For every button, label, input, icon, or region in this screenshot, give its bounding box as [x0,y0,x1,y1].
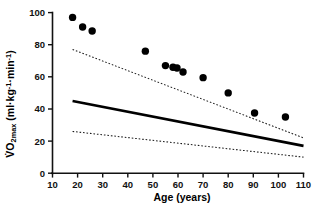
y-axis-title-subscript: 2max [9,123,18,143]
y-tick-label-20: 20 [34,136,45,147]
y-axis-title-vdot: V̇ [4,151,16,158]
y-tick-label-60: 60 [34,71,45,82]
x-tick-label-80: 80 [223,179,234,190]
points-layer [69,14,289,121]
y-tick-label-80: 80 [34,39,45,50]
y-axis-title-exp1: -1 [4,83,13,90]
lower-confidence-limit [73,131,304,157]
x-axis-tick-labels: 10 20 30 40 50 60 70 80 90 100 110 [47,179,311,190]
x-tick-label-40: 40 [123,179,134,190]
data-point [79,23,86,30]
chart-figure: V̇O2max (ml·kg-1·min-1) 0 20 40 60 80 10… [0,0,318,204]
data-point [173,64,180,71]
y-axis-title-units-open: (ml·kg [4,89,16,123]
data-point [179,68,186,75]
y-tick-label-40: 40 [34,103,45,114]
data-point [142,47,149,54]
x-tick-label-90: 90 [248,179,259,190]
regression-line [73,101,304,146]
y-axis-title-text: V̇O2max (ml·kg-1·min-1) [4,50,19,157]
y-axis-title-close: ) [4,50,16,54]
series-layer [73,50,304,158]
data-point [225,89,232,96]
y-axis-tick-labels: 0 20 40 60 80 100 [29,7,45,179]
x-tick-label-100: 100 [270,179,286,190]
data-point [162,62,169,69]
y-axis-title: V̇O2max (ml·kg-1·min-1) [4,50,19,157]
y-axis-title-o: O [4,142,16,150]
x-tick-label-20: 20 [72,179,83,190]
data-point [69,14,76,21]
y-tick-label-100: 100 [29,7,45,18]
y-axis-title-exp2: -1 [4,54,13,61]
data-point [282,113,289,120]
data-point [88,27,95,34]
x-tick-label-60: 60 [173,179,184,190]
data-point [199,74,206,81]
x-tick-label-70: 70 [198,179,209,190]
data-point [251,109,258,116]
x-axis-title: Age (years) [153,191,210,203]
y-axis-title-units-mid: ·min [4,60,16,82]
x-tick-label-110: 110 [296,179,311,190]
scatter-plot: V̇O2max (ml·kg-1·min-1) 0 20 40 60 80 10… [0,0,318,204]
x-tick-label-50: 50 [148,179,159,190]
y-tick-label-0: 0 [40,168,45,179]
x-tick-label-30: 30 [97,179,108,190]
x-tick-label-10: 10 [47,179,58,190]
